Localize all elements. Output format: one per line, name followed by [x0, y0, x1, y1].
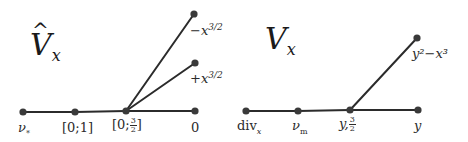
label-div-x: divx: [237, 119, 261, 136]
left-graph-title: ^ Vx: [30, 30, 61, 64]
label-text: y²−x³: [412, 46, 448, 61]
node-nu-star: [19, 108, 26, 115]
edge-nu-m-y-three-halves: [298, 110, 350, 111]
label-plus-x-three-halves: +x3/2: [190, 71, 223, 85]
label-prefix: y,: [339, 116, 349, 131]
label-y2-minus-x3: y²−x³: [412, 47, 448, 60]
fraction: 32: [349, 116, 356, 133]
node-zero: [191, 107, 198, 114]
title-subscript: x: [52, 46, 61, 65]
node-zero-three-halves: [122, 107, 129, 114]
node-zero-one: [71, 108, 78, 115]
label-superscript: 3/2: [208, 70, 222, 80]
edge-zero-one-zero-three-halves: [75, 111, 126, 112]
label-prefix: [0;: [112, 117, 130, 132]
edge-y-three-halves-y2-minus-x3: [350, 38, 417, 110]
title-hat: ^: [32, 20, 49, 40]
label-base: +x: [190, 71, 208, 86]
label-zero: 0: [191, 121, 199, 134]
node-y-three-halves: [346, 106, 353, 113]
label-text: ν: [18, 120, 26, 135]
label-suffix: ]: [137, 117, 142, 132]
label-subscript: x: [257, 127, 262, 136]
denominator: 2: [349, 125, 356, 133]
label-subscript: m: [300, 127, 308, 136]
label-nu-star: ν*: [18, 121, 30, 138]
label-subscript: *: [26, 129, 30, 138]
label-y-three-halves: y,32: [339, 116, 356, 133]
label-base: −x: [190, 23, 208, 38]
label-text: ν: [292, 118, 300, 133]
title-letter: V: [265, 21, 287, 56]
title-subscript: x: [287, 40, 296, 59]
label-text: y: [414, 118, 421, 133]
label-zero-three-halves: [0;32]: [112, 117, 142, 134]
node-y2-minus-x3: [413, 34, 420, 41]
denominator: 2: [130, 126, 137, 134]
node-div-x: [242, 107, 249, 114]
edge-zero-three-halves-plus-x: [126, 63, 195, 111]
edge-zero-three-halves-minus-x: [126, 14, 194, 111]
node-minus-x-three-halves: [190, 10, 197, 17]
label-y: y: [414, 119, 421, 132]
label-superscript: 3/2: [208, 22, 222, 32]
label-zero-one: [0;1]: [62, 121, 93, 134]
node-nu-m: [294, 107, 301, 114]
label-text: [0;1]: [62, 120, 93, 135]
node-y: [414, 106, 421, 113]
right-graph-title: Vx: [265, 24, 296, 58]
label-text: div: [237, 118, 257, 133]
label-nu-m: νm: [292, 119, 308, 136]
fraction: 32: [130, 117, 137, 134]
label-text: 0: [191, 120, 199, 135]
label-minus-x-three-halves: −x3/2: [190, 23, 223, 37]
node-plus-x-three-halves: [191, 59, 198, 66]
